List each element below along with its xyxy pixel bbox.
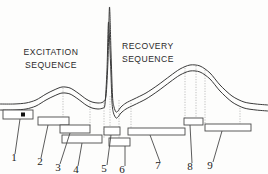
callout-number-4: 4 bbox=[73, 163, 79, 174]
timing-bar-group bbox=[3, 110, 251, 146]
callout-number-7: 7 bbox=[155, 159, 161, 171]
callout-number-8: 8 bbox=[187, 160, 193, 172]
leader-line-8 bbox=[190, 125, 192, 163]
timing-bar-2[interactable] bbox=[38, 117, 69, 125]
callout-number-3: 3 bbox=[55, 161, 61, 173]
callout-number-6: 6 bbox=[119, 163, 125, 174]
callout-number-1: 1 bbox=[11, 151, 17, 163]
waveform-canvas: 123456789 bbox=[0, 0, 268, 174]
ecg-diagram: 123456789 EXCITATION SEQUENCE RECOVERY S… bbox=[0, 0, 268, 174]
excitation-sequence-label: EXCITATION SEQUENCE bbox=[8, 46, 94, 71]
leader-line-1 bbox=[15, 119, 20, 154]
callout-number-group: 123456789 bbox=[11, 151, 213, 174]
callout-number-5: 5 bbox=[101, 162, 107, 174]
leader-line-9 bbox=[213, 131, 222, 162]
timing-bar-3[interactable] bbox=[60, 125, 90, 133]
timing-bar-6[interactable] bbox=[109, 138, 130, 146]
recovery-sequence-label: RECOVERY SEQUENCE bbox=[122, 40, 202, 65]
timing-bar-1[interactable] bbox=[3, 110, 33, 119]
stimulus-marker bbox=[21, 113, 25, 117]
callout-number-2: 2 bbox=[37, 155, 43, 167]
leader-line-7 bbox=[150, 135, 160, 162]
timing-bar-8[interactable] bbox=[184, 118, 203, 125]
timing-bar-7[interactable] bbox=[128, 128, 185, 135]
timing-bar-9[interactable] bbox=[205, 124, 251, 131]
callout-number-9: 9 bbox=[207, 159, 213, 171]
leader-line-2 bbox=[41, 125, 48, 158]
timing-bar-5[interactable] bbox=[104, 127, 120, 135]
